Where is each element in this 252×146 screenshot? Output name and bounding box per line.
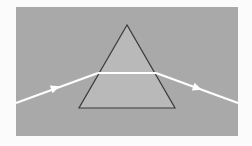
diagram-canvas (0, 0, 252, 146)
prism-refraction-diagram (0, 0, 252, 146)
